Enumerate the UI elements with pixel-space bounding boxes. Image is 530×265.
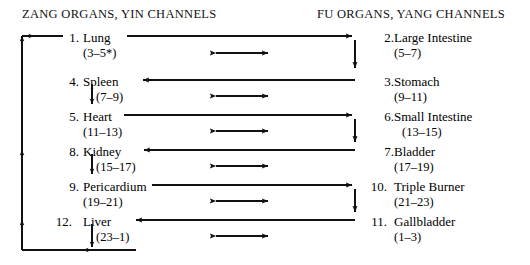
yin-return-spine	[22, 36, 136, 250]
meridian-clock-diagram: ZANG ORGANS, YIN CHANNELS FU ORGANS, YAN…	[0, 0, 530, 265]
flow-arrows-layer	[0, 0, 530, 265]
